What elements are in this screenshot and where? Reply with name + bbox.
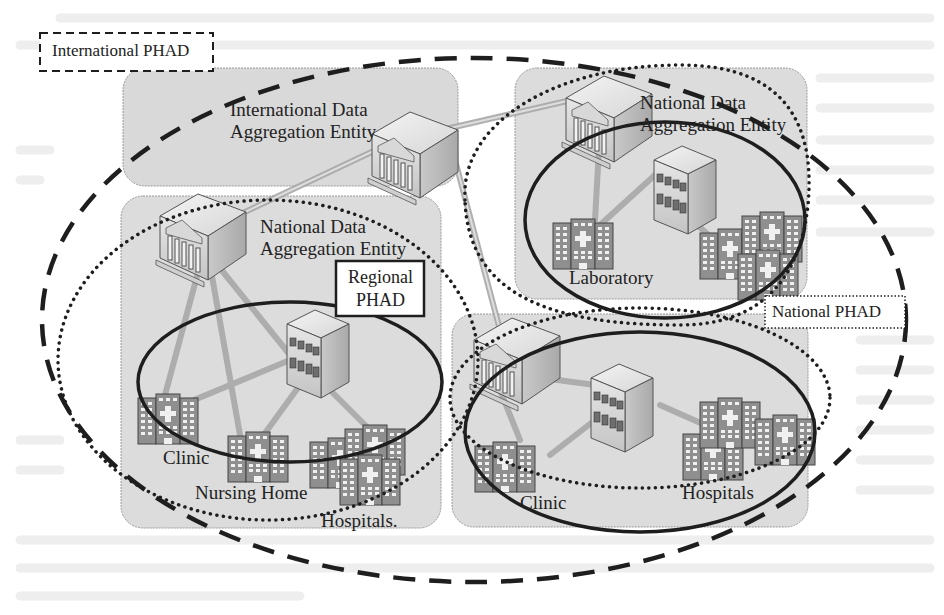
laboratory-building-icon	[553, 219, 613, 269]
national-phad-label: National PHAD	[772, 301, 881, 323]
regional-phad-label-line1: Regional	[348, 266, 413, 288]
phad-hierarchy-diagram: International PHAD International Data Ag…	[0, 0, 944, 615]
national-left-entity-title-line1: National Data	[260, 216, 366, 238]
national-right-entity-title-line2: Aggregation Entity	[640, 114, 786, 136]
node-label-laboratory: Laboratory	[569, 267, 653, 289]
international-entity-title-line2: Aggregation Entity	[230, 121, 376, 143]
regional-left-office-icon	[287, 310, 349, 398]
national-right-entity-title-line1: National Data	[640, 92, 746, 114]
international-phad-label: International PHAD	[52, 40, 189, 62]
node-label-hospitals-right: Hospitals	[682, 482, 754, 504]
hospitals-bottom-building-icon-2	[700, 398, 760, 448]
national-left-entity-title-line2: Aggregation Entity	[260, 238, 406, 260]
regional-phad-label-line2: PHAD	[356, 289, 405, 311]
regional-bottom-office-icon	[591, 364, 653, 452]
clinic-left-building-icon	[138, 394, 198, 444]
international-entity-title-line1: International Data	[230, 99, 368, 121]
hospitals-bottom-building-icon-3	[755, 415, 815, 465]
node-label-clinic-left: Clinic	[163, 447, 209, 469]
node-label-hospitals-left: Hospitals.	[321, 510, 398, 532]
node-label-clinic-right: Clinic	[520, 492, 566, 514]
regional-right-office-icon	[654, 146, 716, 234]
hospitals-left-building-icon-3	[340, 455, 400, 505]
node-label-nursing-home: Nursing Home	[195, 482, 307, 504]
hospitals-right-building-icon-3	[738, 250, 798, 300]
